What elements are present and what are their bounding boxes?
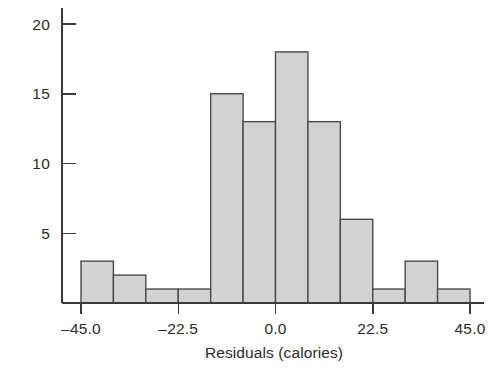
y-tick-label: 5 (41, 225, 50, 242)
x-tick-label: 0.0 (264, 320, 286, 337)
histogram-bar (405, 261, 437, 303)
y-tick-label: 20 (32, 16, 50, 33)
plot-area: 5101520 –45.0–22.50.022.545.0 Residuals … (0, 0, 492, 371)
y-tick-label: 15 (32, 85, 50, 102)
histogram-bar (243, 122, 275, 303)
histogram-bar (178, 289, 210, 303)
histogram-bar (340, 219, 372, 303)
x-tick-label: 22.5 (357, 320, 388, 337)
histogram-bar (276, 52, 308, 303)
histogram-bar (146, 289, 178, 303)
x-tick-label: –22.5 (158, 320, 198, 337)
histogram-bar (373, 289, 405, 303)
chart-canvas: 5101520 –45.0–22.50.022.545.0 Residuals … (0, 0, 492, 371)
histogram-bar (81, 261, 113, 303)
x-tick-label: 45.0 (455, 320, 486, 337)
y-tick-label: 10 (32, 155, 50, 172)
y-ticks-group: 5101520 (32, 16, 76, 242)
x-axis-title: Residuals (calories) (205, 344, 343, 361)
histogram-bar (211, 94, 243, 303)
histogram-chart: 5101520 –45.0–22.50.022.545.0 Residuals … (0, 0, 492, 371)
x-tick-label: –45.0 (61, 320, 101, 337)
x-ticks-group: –45.0–22.50.022.545.0 (61, 303, 486, 337)
histogram-bar (438, 289, 470, 303)
histogram-bar (308, 122, 340, 303)
histogram-bar (113, 275, 145, 303)
bars-group (81, 52, 470, 303)
